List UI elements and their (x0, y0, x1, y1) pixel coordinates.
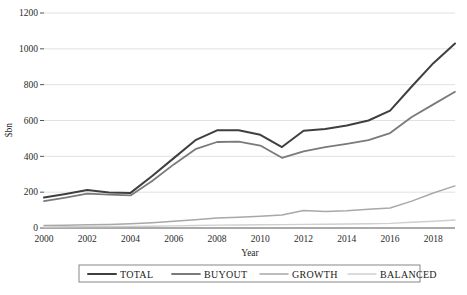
y-tick-label: 0 (33, 223, 38, 233)
chart-legend: TOTALBUYOUTGROWTHBALANCED (79, 265, 437, 282)
legend-label-balanced: BALANCED (380, 269, 437, 280)
data-series (44, 43, 455, 226)
legend-label-growth: GROWTH (292, 269, 338, 280)
x-tick-label: 2004 (121, 234, 140, 244)
legend-label-buyout: BUYOUT (204, 269, 247, 280)
x-tick-label: 2018 (424, 234, 443, 244)
x-tick-label: 2014 (337, 234, 356, 244)
x-axis-tick-labels: 2000200220042006200820102012201420162018 (35, 234, 444, 244)
y-axis-tick-labels: 020040060080010001200 (19, 8, 44, 233)
x-tick-label: 2016 (381, 234, 400, 244)
y-axis-title: $bn (4, 123, 14, 138)
x-tick-label: 2000 (35, 234, 54, 244)
y-tick-label: 400 (24, 152, 39, 162)
y-tick-label: 600 (24, 116, 39, 126)
gridlines (44, 13, 455, 192)
x-tick-label: 2012 (294, 234, 313, 244)
line-chart: 020040060080010001200 200020022004200620… (0, 0, 467, 295)
legend-label-total: TOTAL (120, 269, 153, 280)
y-tick-label: 1000 (19, 44, 38, 54)
series-line-balanced (44, 220, 455, 227)
y-tick-label: 1200 (19, 8, 38, 18)
y-tick-label: 800 (24, 80, 39, 90)
x-axis-title: Year (241, 248, 259, 258)
chart-canvas: 020040060080010001200 200020022004200620… (0, 0, 467, 295)
x-tick-label: 2010 (251, 234, 270, 244)
x-tick-label: 2006 (164, 234, 183, 244)
x-tick-label: 2002 (78, 234, 97, 244)
x-tick-label: 2008 (208, 234, 227, 244)
y-tick-label: 200 (24, 187, 39, 197)
